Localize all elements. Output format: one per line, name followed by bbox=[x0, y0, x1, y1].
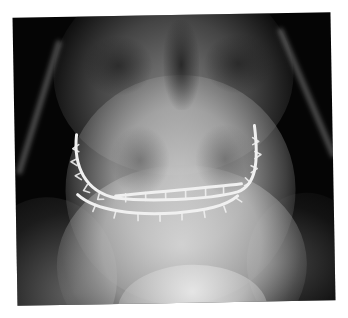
arch-bar-wires bbox=[13, 12, 336, 306]
ligature-loops bbox=[71, 137, 262, 222]
radiograph bbox=[13, 12, 336, 306]
caption-fragment bbox=[112, 0, 192, 2]
